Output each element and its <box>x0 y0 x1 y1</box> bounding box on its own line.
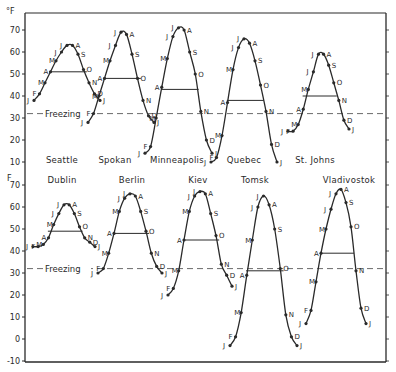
freezing-label: Freezing <box>45 264 81 274</box>
month-label: A <box>155 84 160 92</box>
month-point <box>73 212 76 215</box>
month-label: S <box>258 57 263 65</box>
month-label: J <box>160 292 163 300</box>
month-label: J <box>203 159 206 167</box>
month-label: O <box>354 223 360 231</box>
city-label: Berlin <box>119 175 145 185</box>
month-point <box>354 269 357 272</box>
month-label: M <box>160 55 166 63</box>
y-tick-label: 30 <box>10 269 20 278</box>
month-point <box>342 119 345 122</box>
month-point <box>194 72 197 75</box>
month-point <box>253 59 256 62</box>
month-point <box>225 274 228 277</box>
month-label: J <box>26 97 29 105</box>
month-label: D <box>294 333 299 341</box>
month-point <box>171 35 174 38</box>
month-label: J <box>137 150 140 158</box>
month-point <box>329 208 332 211</box>
month-label: D <box>230 272 235 280</box>
y-tick-label: 10 <box>10 313 20 322</box>
temperature-curve-st-johns <box>288 52 349 131</box>
y-tick-label: 40 <box>10 92 20 101</box>
month-label: M <box>301 86 307 94</box>
month-point <box>182 28 185 31</box>
month-label: M <box>234 309 240 317</box>
month-label: A <box>72 201 77 209</box>
month-label: N <box>289 311 294 319</box>
freezing-label: Freezing <box>45 109 81 119</box>
y-tick-label: 60 <box>10 48 20 57</box>
month-label: M <box>92 93 98 101</box>
month-point <box>347 127 350 130</box>
month-point <box>155 265 158 268</box>
month-point <box>136 77 139 80</box>
month-label: J <box>108 42 111 50</box>
month-point <box>88 241 91 244</box>
month-label: M <box>215 132 221 140</box>
month-label: A <box>240 272 245 280</box>
month-label: A <box>221 99 226 107</box>
month-label: A <box>107 230 112 238</box>
month-point <box>160 271 163 274</box>
month-point <box>130 53 133 56</box>
month-point <box>125 33 128 36</box>
month-point <box>214 234 217 237</box>
month-label: M <box>149 115 155 123</box>
month-label: J <box>305 68 308 76</box>
month-label: A <box>187 27 192 35</box>
month-label: O <box>264 82 270 90</box>
y-tick-label: 10 <box>10 158 20 167</box>
month-label: O <box>87 66 93 74</box>
month-label: J <box>117 195 120 203</box>
month-label: D <box>209 137 214 145</box>
month-label: J <box>351 126 354 134</box>
month-point <box>312 70 315 73</box>
month-point <box>47 236 50 239</box>
month-point <box>209 212 212 215</box>
month-point <box>279 267 282 270</box>
month-point <box>332 81 335 84</box>
month-label: S <box>349 199 354 207</box>
month-label: M <box>49 57 55 65</box>
month-label: M <box>309 278 315 286</box>
city-label: Tomsk <box>240 175 269 185</box>
month-label: N <box>269 108 274 116</box>
month-label: S <box>77 210 82 218</box>
month-label: M <box>291 121 297 129</box>
month-label: J <box>323 206 326 214</box>
month-point <box>234 335 237 338</box>
month-label: S <box>278 226 283 234</box>
month-point <box>273 227 276 230</box>
month-point <box>237 46 240 49</box>
y-tick-label: 50 <box>10 70 20 79</box>
month-label: F <box>286 128 290 136</box>
city-label: Seattle <box>46 155 78 165</box>
month-point <box>188 50 191 53</box>
month-label: J <box>231 44 234 52</box>
month-label: A <box>42 234 47 242</box>
month-point <box>60 50 63 53</box>
month-point <box>245 274 248 277</box>
month-point <box>230 285 233 288</box>
y-tick-label: -10 <box>7 357 20 366</box>
month-point <box>267 203 270 206</box>
month-point <box>339 188 342 191</box>
month-label: M <box>103 57 109 65</box>
month-label: F <box>31 243 35 251</box>
month-label: M <box>38 79 44 87</box>
month-label: A <box>44 68 49 76</box>
month-label: A <box>98 75 103 83</box>
month-label: A <box>253 40 258 48</box>
city-label: Vladivostok <box>323 175 376 185</box>
month-label: M <box>319 226 325 234</box>
month-label: M <box>112 208 118 216</box>
month-point <box>182 238 185 241</box>
month-point <box>68 203 71 206</box>
city-label: Kiev <box>188 175 207 185</box>
month-label: A <box>314 250 319 258</box>
month-label: O <box>219 232 225 240</box>
city-label: Minneapolis <box>150 155 204 165</box>
month-point <box>344 201 347 204</box>
month-point <box>228 344 231 347</box>
